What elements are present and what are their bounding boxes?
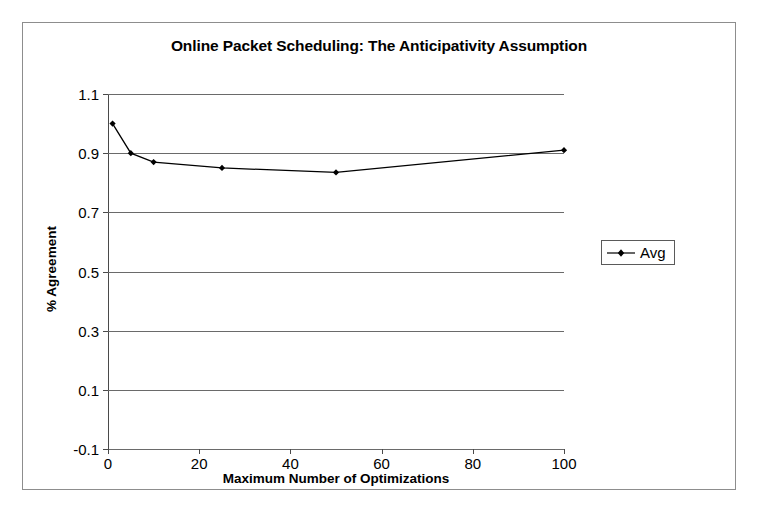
figure-page: Online Packet Scheduling: The Anticipati… [0, 0, 760, 514]
legend-label-avg: Avg [640, 245, 666, 260]
chart-frame: Online Packet Scheduling: The Anticipati… [22, 22, 736, 490]
gridline [108, 449, 564, 450]
y-tick-label: 0.1 [78, 381, 99, 398]
x-tick-label: 60 [373, 455, 390, 472]
plot-area: -0.10.10.30.50.70.91.1 020406080100 [108, 94, 564, 449]
y-tick-label: 0.5 [78, 263, 99, 280]
x-tick-label: 20 [191, 455, 208, 472]
y-tick-label: 0.3 [78, 322, 99, 339]
x-tick [564, 449, 565, 454]
data-point [333, 169, 339, 175]
y-tick-label: -0.1 [73, 441, 99, 458]
y-axis-title: % Agreement [44, 226, 59, 312]
x-tick [382, 449, 383, 454]
data-point [128, 150, 134, 156]
x-tick [199, 449, 200, 454]
y-tick-label: 0.7 [78, 204, 99, 221]
y-tick-label: 0.9 [78, 145, 99, 162]
chart-title: Online Packet Scheduling: The Anticipati… [23, 37, 735, 55]
x-tick [290, 449, 291, 454]
legend-marker-icon [607, 247, 635, 259]
x-tick-label: 40 [282, 455, 299, 472]
x-tick-label: 80 [464, 455, 481, 472]
y-tick-label: 1.1 [78, 86, 99, 103]
data-point [561, 147, 567, 153]
x-tick [473, 449, 474, 454]
x-axis-title: Maximum Number of Optimizations [108, 471, 564, 486]
x-tick-label: 100 [551, 455, 576, 472]
x-tick [108, 449, 109, 454]
data-point [151, 159, 157, 165]
series-plot [108, 94, 564, 449]
x-tick-label: 0 [104, 455, 112, 472]
series-line-avg [113, 124, 564, 173]
data-point [109, 120, 115, 126]
chart-legend: Avg [601, 240, 675, 265]
data-point [219, 165, 225, 171]
